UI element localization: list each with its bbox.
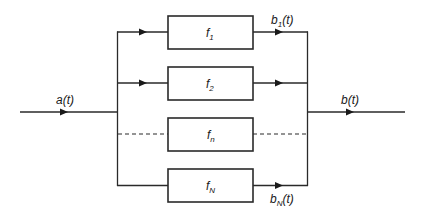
branch-n: fn xyxy=(118,118,307,151)
branch-1-out-label: b1(t) xyxy=(271,13,293,29)
input-signal: a(t) xyxy=(20,93,118,116)
branch-N-out-label: bN(t) xyxy=(270,192,294,208)
branch-1-in-arrow-icon xyxy=(139,29,147,36)
input-arrow-icon xyxy=(60,109,68,116)
branch-2: f2 xyxy=(117,67,308,100)
branch-2-in-arrow-icon xyxy=(139,80,147,87)
branch-1-out-arrow-icon xyxy=(275,29,283,36)
output-label: b(t) xyxy=(341,93,359,107)
input-label: a(t) xyxy=(56,93,74,107)
branch-N: fN bN(t) xyxy=(117,169,308,208)
output-signal: b(t) xyxy=(307,93,405,116)
branch-1: f1 b1(t) xyxy=(117,13,308,49)
branch-2-out-arrow-icon xyxy=(275,80,283,87)
filter-bank-diagram: a(t) f1 b1(t) f2 fn fN bN(t) xyxy=(0,0,421,220)
output-arrow-icon xyxy=(346,109,354,116)
branch-N-out-arrow-icon xyxy=(275,182,283,189)
